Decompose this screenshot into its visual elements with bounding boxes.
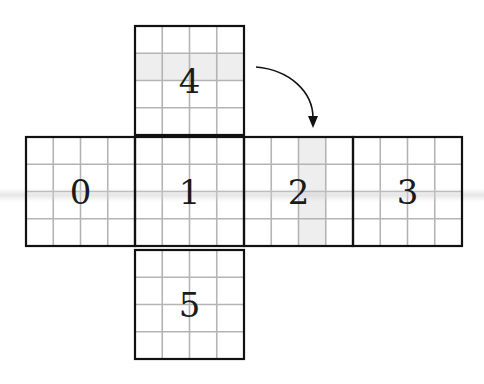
cube-net-diagram: 012345 — [0, 0, 484, 384]
face-3-label: 3 — [397, 172, 419, 212]
fold-arrow-icon — [256, 67, 313, 118]
face-5-label: 5 — [179, 285, 201, 325]
face-0-label: 0 — [70, 172, 92, 212]
face-4-label: 4 — [179, 61, 201, 101]
face-1-label: 1 — [179, 172, 201, 212]
fold-arrowhead-icon — [308, 116, 318, 128]
shaded-cells — [135, 53, 326, 246]
face-2-label: 2 — [288, 172, 310, 212]
